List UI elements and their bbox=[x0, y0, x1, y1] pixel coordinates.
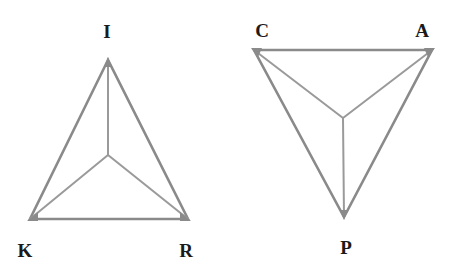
label-k: K bbox=[18, 240, 33, 261]
diagram-canvas: I K R C A P bbox=[0, 0, 460, 278]
spoke-center-to-p bbox=[343, 118, 344, 217]
label-r: R bbox=[179, 240, 193, 261]
spoke-center-to-r bbox=[108, 155, 188, 219]
label-i: I bbox=[103, 21, 110, 42]
vertex-marker-p bbox=[340, 210, 348, 220]
spoke-center-to-a bbox=[343, 50, 432, 118]
label-p: P bbox=[340, 237, 352, 258]
spoke-center-to-k bbox=[30, 155, 108, 219]
label-a: A bbox=[415, 20, 429, 41]
triangle-ikr: I K R bbox=[18, 21, 194, 261]
spoke-center-to-c bbox=[254, 50, 343, 118]
label-c: C bbox=[255, 20, 269, 41]
vertex-marker-i bbox=[104, 57, 112, 67]
triangle-cap: C A P bbox=[251, 20, 435, 258]
